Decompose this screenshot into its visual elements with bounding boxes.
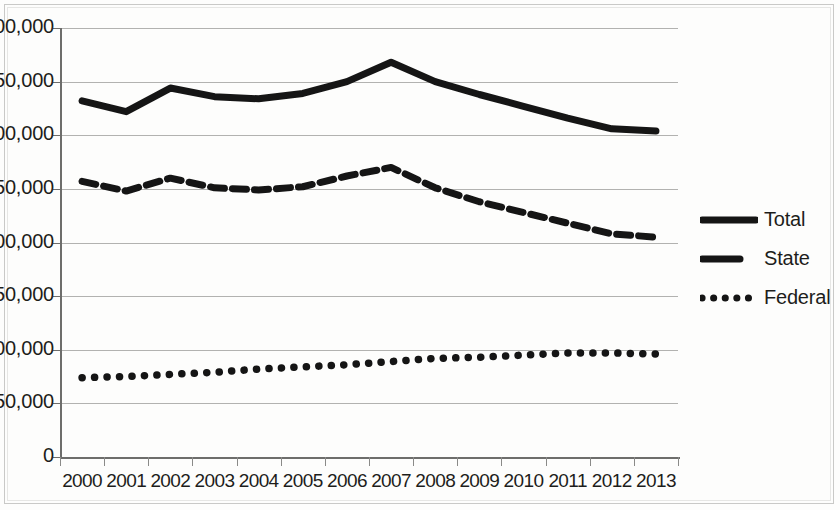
legend-item-state[interactable]: State <box>700 239 834 278</box>
legend-item-total[interactable]: Total <box>700 200 834 239</box>
y-axis-label: 1,50,000 <box>0 283 54 306</box>
y-axis-tick <box>53 296 60 297</box>
x-axis-tick <box>634 457 635 466</box>
legend-swatch-federal <box>700 290 758 306</box>
x-axis-tick <box>546 457 547 466</box>
line-chart: 050,0001,00,0001,50,0002,00,0002,50,0003… <box>0 0 840 510</box>
y-axis-line <box>60 28 62 459</box>
x-axis-label: 2004 <box>235 470 283 492</box>
x-axis-label: 2013 <box>632 470 680 492</box>
x-axis-label: 2002 <box>146 470 194 492</box>
chart-legend: TotalStateFederal <box>700 200 834 317</box>
x-axis: 2000200120022003200420052006200720082009… <box>60 470 680 500</box>
y-axis-tick <box>53 243 60 244</box>
x-axis-label: 2000 <box>58 470 106 492</box>
x-axis-tick <box>281 457 282 466</box>
gridline-row <box>60 28 678 457</box>
gridline <box>60 28 678 29</box>
x-axis-tick <box>590 457 591 466</box>
x-axis-label: 2003 <box>191 470 239 492</box>
legend-label: State <box>764 247 810 270</box>
x-axis-label: 2011 <box>544 470 592 492</box>
legend-swatch-total <box>700 212 758 228</box>
x-axis-tick <box>457 457 458 466</box>
y-axis-tick <box>53 82 60 83</box>
x-axis-tick <box>148 457 149 466</box>
x-axis-tick <box>60 457 61 466</box>
x-axis-tick <box>237 457 238 466</box>
y-axis-tick <box>53 135 60 136</box>
y-axis-tick <box>53 189 60 190</box>
legend-swatch-state <box>700 251 758 267</box>
y-axis-label: 2,00,000 <box>0 230 54 253</box>
chart-figure: 050,0001,00,0001,50,0002,00,0002,50,0003… <box>0 0 840 510</box>
y-axis-label: 50,000 <box>0 390 54 413</box>
x-axis-label: 2012 <box>588 470 636 492</box>
x-axis-tick <box>413 457 414 466</box>
x-axis-tick <box>104 457 105 466</box>
x-axis-tick <box>678 457 679 466</box>
y-axis-tick <box>53 28 60 29</box>
x-axis-label: 2008 <box>411 470 459 492</box>
x-axis-line <box>60 457 680 459</box>
y-axis-label: 0 <box>43 444 54 467</box>
x-axis-label: 2010 <box>500 470 548 492</box>
x-axis-tick <box>501 457 502 466</box>
legend-label: Total <box>764 208 805 231</box>
legend-item-federal[interactable]: Federal <box>700 278 834 317</box>
x-axis-tick <box>325 457 326 466</box>
x-axis-label: 2001 <box>102 470 150 492</box>
y-axis-label: 4,00,000 <box>0 15 54 38</box>
y-axis-tick <box>53 403 60 404</box>
x-axis-label: 2005 <box>279 470 327 492</box>
x-axis-tick <box>192 457 193 466</box>
y-axis-label: 1,00,000 <box>0 337 54 360</box>
y-axis-tick <box>53 457 60 458</box>
y-axis-tick <box>53 350 60 351</box>
y-axis-label: 2,50,000 <box>0 176 54 199</box>
x-axis-label: 2006 <box>323 470 371 492</box>
y-axis-label: 3,00,000 <box>0 122 54 145</box>
x-axis-tick <box>369 457 370 466</box>
x-axis-label: 2007 <box>367 470 415 492</box>
y-axis-label: 3,50,000 <box>0 69 54 92</box>
x-axis-label: 2009 <box>455 470 503 492</box>
legend-label: Federal <box>764 286 830 309</box>
